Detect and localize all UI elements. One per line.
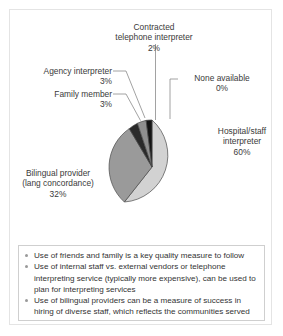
note-text: Use of bilingual providers can be a meas… — [34, 296, 250, 316]
leader-line-agency — [113, 71, 145, 118]
notes-panel: Use of friends and family is a key quali… — [18, 245, 265, 321]
list-item: Use of internal staff vs. external vendo… — [23, 261, 259, 295]
pie-label-family-percent: 3% — [8, 99, 112, 109]
pie-label-contracted-telephone-interpreter: Contracted telephone interpreter 2% — [99, 22, 209, 53]
list-item: Use of bilingual providers can be a meas… — [23, 295, 259, 318]
pie-label-bilingual-provider: Bilingual provider (lang concordance) 32… — [6, 168, 110, 199]
pie-label-contracted-name2: telephone interpreter — [115, 32, 192, 42]
pie-label-bilingual-name: Bilingual provider — [26, 168, 90, 178]
pie-label-hospital-name: Hospital/staff — [218, 126, 266, 136]
pie-label-bilingual-name2: (lang concordance) — [22, 178, 94, 188]
pie-label-hospital-percent: 60% — [204, 147, 280, 157]
note-text: Use of friends and family is a key quali… — [34, 251, 244, 260]
pie-label-hospital-staff-interpreter: Hospital/staff interpreter 60% — [204, 126, 280, 157]
pie-label-contracted-name: Contracted — [134, 22, 175, 32]
pie-label-agency-name: Agency interpreter — [44, 66, 112, 76]
pie-label-agency-interpreter: Agency interpreter 3% — [8, 66, 112, 87]
figure-root: Contracted telephone interpreter 2% Agen… — [0, 0, 283, 336]
leader-lines — [113, 44, 178, 121]
pie-label-hospital-name2: interpreter — [223, 136, 261, 146]
pie-label-none-available: None available 0% — [174, 73, 270, 94]
note-text: Use of internal staff vs. external vendo… — [34, 262, 256, 294]
pie-label-none-name: None available — [194, 73, 249, 83]
pie-label-contracted-percent: 2% — [99, 43, 209, 53]
pie-label-family-member: Family member 3% — [8, 89, 112, 110]
leader-line-family — [113, 94, 141, 121]
list-item: Use of friends and family is a key quali… — [23, 250, 259, 261]
pie-label-family-name: Family member — [54, 89, 112, 99]
pie-label-agency-percent: 3% — [8, 76, 112, 86]
bullet-icon — [25, 265, 28, 268]
pie-chart-area: Contracted telephone interpreter 2% Agen… — [0, 0, 283, 236]
bullet-icon — [25, 299, 28, 302]
pie-label-none-percent: 0% — [174, 83, 270, 93]
pie-label-bilingual-percent: 32% — [6, 189, 110, 199]
notes-list: Use of friends and family is a key quali… — [23, 250, 259, 318]
bullet-icon — [25, 254, 28, 257]
pie-slices — [109, 120, 168, 202]
